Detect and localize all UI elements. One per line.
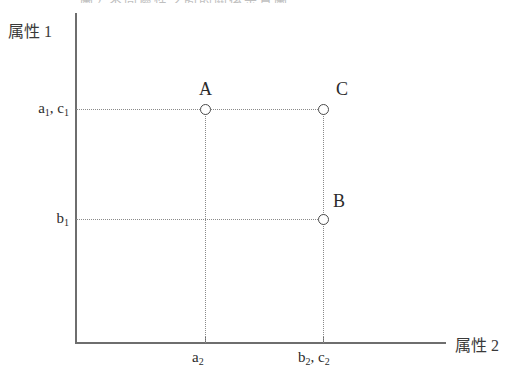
data-point-label-b: B bbox=[333, 192, 345, 210]
y-tick-label-a1-c1: a1, c1 bbox=[38, 100, 69, 117]
data-point-label-c: C bbox=[336, 80, 348, 98]
data-point-c bbox=[318, 104, 329, 115]
y-tick-label-b1: b1 bbox=[57, 210, 70, 227]
x-axis-title: 属性 2 bbox=[455, 332, 499, 356]
y-axis-title: 属性 1 bbox=[8, 18, 52, 42]
data-point-a bbox=[200, 104, 211, 115]
x-tick-label-a2: a2 bbox=[192, 349, 204, 366]
x-tick-label-b2-c2: b2, c2 bbox=[298, 349, 330, 366]
guideline-horizontal-b1 bbox=[76, 219, 328, 220]
guideline-vertical-b2-c2 bbox=[323, 109, 324, 343]
data-point-b bbox=[318, 214, 329, 225]
figure-canvas: 圖2 不同屬性之間的關係示意圖 属性 1 属性 2 a1, c1 b1 a2 b… bbox=[0, 0, 527, 380]
x-axis-line bbox=[75, 342, 446, 344]
y-axis-line bbox=[75, 13, 77, 344]
guideline-vertical-a2 bbox=[205, 109, 206, 343]
figure-caption-cutoff: 圖2 不同屬性之間的關係示意圖 bbox=[80, 0, 440, 3]
data-point-label-a: A bbox=[199, 80, 212, 98]
